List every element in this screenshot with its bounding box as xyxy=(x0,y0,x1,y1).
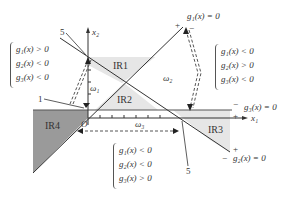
condition-left-2: g₂(x) < 0 xyxy=(10,56,68,70)
boundary-g1-line xyxy=(60,38,230,152)
class-label-w2: ω₂ xyxy=(163,74,172,83)
region-label-ir3: IR3 xyxy=(208,124,223,135)
sign-g3-minus: − xyxy=(233,100,238,109)
condition-left-1: g₁(x) > 0 xyxy=(10,42,68,56)
condition-left-3: g₃(x) < 0 xyxy=(10,70,68,84)
condition-bottom-1: g₁(x) < 0 xyxy=(113,143,178,157)
sign-g2-minus: − xyxy=(222,154,227,163)
region-label-ir1: IR1 xyxy=(113,60,128,71)
region-label-ir2: IR2 xyxy=(117,94,132,105)
x1-axis-label: x₁ xyxy=(251,114,258,123)
condition-right-3: g₃(x) < 0 xyxy=(215,72,280,86)
sign-g1-minus: − xyxy=(189,24,194,33)
region-label-ir4: IR4 xyxy=(45,120,60,131)
boundary-label-g3: g₃(x) = 0 xyxy=(244,103,277,112)
region-ir4-shape xyxy=(33,110,88,173)
brace-icon xyxy=(113,143,119,189)
condition-right-2: g₂(x) > 0 xyxy=(215,58,280,72)
conditions-bottom: g₁(x) < 0 g₂(x) < 0 g₃(x) > 0 xyxy=(113,143,178,189)
sign-g2-plus: + xyxy=(233,145,238,154)
conditions-right: g₁(x) < 0 g₂(x) > 0 g₃(x) < 0 xyxy=(215,44,280,90)
callout-5-bottom: 5 xyxy=(186,167,191,176)
condition-right-1: g₁(x) < 0 xyxy=(215,44,280,58)
callout-1-leader xyxy=(44,99,84,108)
class-label-w3: ω₃ xyxy=(135,120,144,129)
callout-5-bottom-leader xyxy=(182,121,188,166)
origin-label: O xyxy=(81,120,88,129)
condition-bottom-3: g₃(x) > 0 xyxy=(113,171,178,185)
boundary-label-g1: g₁(x) = 0 xyxy=(187,12,220,21)
x2-axis-label: x₂ xyxy=(92,28,99,37)
boundary-label-g2: g₂(x) = 0 xyxy=(233,154,266,163)
callout-1: 1 xyxy=(38,95,43,104)
sign-g3-plus: + xyxy=(233,112,238,121)
condition-bottom-2: g₂(x) < 0 xyxy=(113,157,178,171)
conditions-left: g₁(x) > 0 g₂(x) < 0 g₃(x) < 0 xyxy=(10,42,68,88)
sign-g1-plus: + xyxy=(175,21,180,30)
class-label-w1: ω₁ xyxy=(90,84,99,93)
brace-icon xyxy=(10,42,16,88)
callout-5-top: 5 xyxy=(60,28,65,37)
brace-icon xyxy=(215,44,221,90)
